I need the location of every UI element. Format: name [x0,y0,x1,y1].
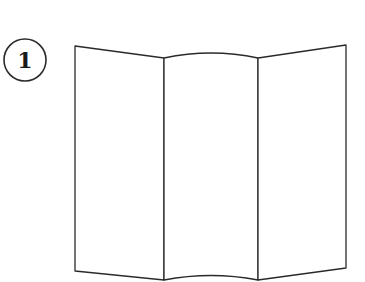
panel-middle [164,53,258,280]
panel-left [75,46,164,280]
trifold-diagram: 1 [0,0,365,282]
step-badge: 1 [4,39,46,81]
panel-right [258,45,346,280]
step-number: 1 [17,47,32,73]
brochure [75,45,346,280]
